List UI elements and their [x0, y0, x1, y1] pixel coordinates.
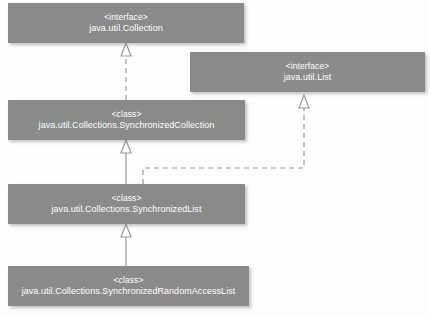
uml-node-synchronized-list[interactable]: <class> java.util.Collections.Synchroniz… [8, 184, 245, 224]
uml-node-synchronized-random-access-list[interactable]: <class> java.util.Collections.Synchroniz… [8, 266, 249, 306]
edge-synclist-extends-synccollection [121, 140, 131, 184]
stereotype-label: <class> [112, 109, 142, 120]
class-name-label: java.util.Collections.SynchronizedRandom… [22, 286, 236, 297]
stereotype-label: <class> [112, 193, 142, 204]
stereotype-label: <interface> [104, 12, 148, 23]
uml-class-diagram: <interface> java.util.Collection <interf… [0, 0, 430, 316]
uml-node-collection[interactable]: <interface> java.util.Collection [8, 3, 244, 43]
stereotype-label: <interface> [286, 61, 330, 72]
uml-node-list[interactable]: <interface> java.util.List [190, 52, 425, 92]
uml-node-synchronized-collection[interactable]: <class> java.util.Collections.Synchroniz… [8, 100, 245, 140]
hollow-triangle-arrowhead-icon [121, 224, 131, 237]
class-name-label: java.util.List [284, 72, 332, 83]
edge-syncrandomaccesslist-extends-synclist [121, 224, 131, 266]
stereotype-label: <class> [114, 275, 144, 286]
class-name-label: java.util.Collections.SynchronizedList [52, 204, 202, 215]
hollow-triangle-arrowhead-icon [121, 43, 131, 56]
edge-synccollection-implements-collection [121, 43, 131, 100]
hollow-triangle-arrowhead-icon [299, 95, 309, 108]
class-name-label: java.util.Collections.SynchronizedCollec… [39, 120, 215, 131]
hollow-triangle-arrowhead-icon [121, 140, 131, 153]
class-name-label: java.util.Collection [89, 23, 163, 34]
